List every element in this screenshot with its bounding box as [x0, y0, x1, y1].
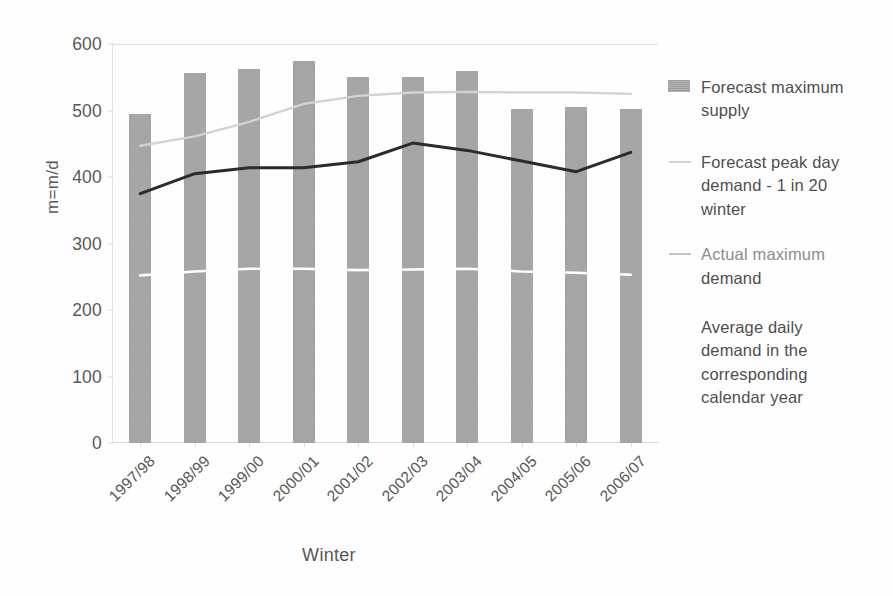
legend-text-line: Forecast maximum: [701, 78, 844, 96]
x-axis-title: Winter: [0, 545, 658, 566]
chart-legend: Forecast maximumsupply Forecast peak day…: [668, 76, 886, 414]
legend-text-line: demand: [701, 269, 762, 287]
y-tick-mark: [108, 243, 113, 244]
legend-text-line: calendar year: [701, 388, 803, 406]
y-tick-label: 300: [72, 233, 102, 254]
chart-figure: m=m/d 0100200300400500600 1997/981998/99…: [0, 0, 893, 596]
legend-text-line: winter: [701, 200, 746, 218]
y-tick-label: 600: [72, 34, 102, 55]
bar-2004-05: [511, 109, 533, 443]
legend-entry-forecast-peak-day-demand: Forecast peak daydemand - 1 in 20winter: [668, 151, 886, 221]
bar-2002-03: [402, 77, 424, 443]
legend-text-line: supply: [701, 101, 750, 119]
y-tick-label: 0: [92, 433, 102, 454]
x-tick-mark: [631, 443, 632, 447]
legend-text-line: corresponding: [701, 365, 808, 383]
x-tick-mark: [576, 443, 577, 447]
x-tick-mark: [413, 443, 414, 447]
x-tick-label-2006-07: 2006/07: [596, 452, 649, 505]
x-tick-label-2002-03: 2002/03: [378, 452, 431, 505]
x-tick-mark: [140, 443, 141, 447]
bar-1998-99: [184, 73, 206, 443]
x-tick-label-2003-04: 2003/04: [433, 452, 486, 505]
x-tick-label-2001-02: 2001/02: [324, 452, 377, 505]
legend-text-line: Forecast peak day: [701, 153, 839, 171]
line-average-daily-demand-in-the-corresponding-calendar-year: [140, 269, 631, 276]
x-tick-label-2000-01: 2000/01: [269, 452, 322, 505]
x-tick-label-1997-98: 1997/98: [106, 452, 159, 505]
bar-2000-01: [293, 61, 315, 443]
white-line-icon: [668, 316, 694, 335]
x-tick-label-1999-00: 1999/00: [215, 452, 268, 505]
y-tick-mark: [108, 177, 113, 178]
legend-label-forecast-peak-day-demand: Forecast peak daydemand - 1 in 20winter: [701, 151, 839, 221]
bar-2001-02: [347, 77, 369, 443]
x-tick-mark: [522, 443, 523, 447]
y-tick-mark: [108, 310, 113, 311]
x-tick-mark: [304, 443, 305, 447]
x-tick-mark: [467, 443, 468, 447]
plot-area: 0100200300400500600 1997/981998/991999/0…: [113, 44, 658, 443]
y-tick-label: 500: [72, 100, 102, 121]
y-tick-mark: [108, 110, 113, 111]
legend-label-forecast-maximum-supply: Forecast maximumsupply: [701, 76, 844, 123]
y-tick-mark: [108, 44, 113, 45]
y-tick-mark: [108, 443, 113, 444]
x-tick-mark: [358, 443, 359, 447]
y-tick-label: 200: [72, 300, 102, 321]
bar-1997-98: [129, 114, 151, 443]
legend-text-line: demand - 1 in 20: [701, 176, 827, 194]
legend-text-line: Average daily: [701, 318, 803, 336]
y-tick-mark: [108, 376, 113, 377]
legend-label-actual-maximum-demand: Actual maximumdemand: [701, 243, 825, 290]
y-axis-title: m=m/d: [43, 160, 63, 214]
x-tick-mark: [249, 443, 250, 447]
legend-entry-actual-maximum-demand: Actual maximumdemand: [668, 243, 886, 290]
bar-2006-07: [620, 109, 642, 443]
legend-text-line: Actual maximum: [701, 245, 825, 263]
line-forecast-peak-day-demand-1-in-20-winter: [140, 92, 631, 146]
bar-swatch-icon: [668, 76, 694, 95]
y-tick-label: 400: [72, 167, 102, 188]
legend-label-average-daily-demand: Average dailydemand in thecorrespondingc…: [701, 316, 808, 410]
dark-line-icon: [668, 243, 694, 262]
y-tick-label: 100: [72, 366, 102, 387]
bar-1999-00: [238, 69, 260, 443]
legend-entry-forecast-maximum-supply: Forecast maximumsupply: [668, 76, 886, 123]
bar-2005-06: [565, 107, 587, 443]
x-tick-mark: [195, 443, 196, 447]
x-tick-label-2005-06: 2005/06: [542, 452, 595, 505]
x-tick-label-1998-99: 1998/99: [160, 452, 213, 505]
gridline: [113, 44, 658, 45]
legend-entry-average-daily-demand: Average dailydemand in thecorrespondingc…: [668, 316, 886, 410]
light-line-icon: [668, 151, 694, 170]
line-actual-maximum-demand: [140, 143, 631, 194]
x-tick-label-2004-05: 2004/05: [487, 452, 540, 505]
bar-2003-04: [456, 71, 478, 443]
legend-text-line: demand in the: [701, 341, 808, 359]
